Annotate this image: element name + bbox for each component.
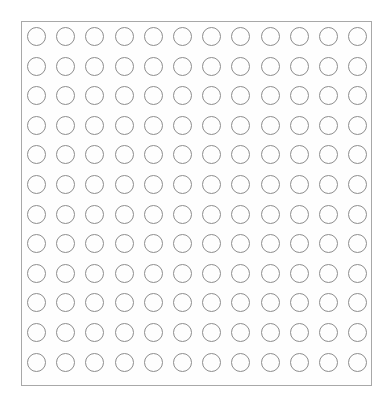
grid-circle-cell[interactable] [319, 116, 338, 135]
grid-circle-cell[interactable] [319, 86, 338, 105]
grid-circle-cell[interactable] [27, 57, 46, 76]
grid-circle-cell[interactable] [115, 145, 134, 164]
grid-circle-cell[interactable] [290, 145, 309, 164]
grid-circle-cell[interactable] [261, 57, 280, 76]
grid-circle-cell[interactable] [290, 323, 309, 342]
grid-circle-cell[interactable] [290, 86, 309, 105]
grid-circle-cell[interactable] [319, 145, 338, 164]
grid-circle-cell[interactable] [290, 264, 309, 283]
grid-circle-cell[interactable] [56, 234, 75, 253]
grid-circle-cell[interactable] [144, 116, 163, 135]
grid-circle-cell[interactable] [144, 86, 163, 105]
grid-circle-cell[interactable] [85, 205, 104, 224]
grid-circle-cell[interactable] [231, 175, 250, 194]
grid-circle-cell[interactable] [85, 27, 104, 46]
grid-circle-cell[interactable] [173, 205, 192, 224]
grid-circle-cell[interactable] [27, 86, 46, 105]
grid-circle-cell[interactable] [290, 27, 309, 46]
grid-circle-cell[interactable] [348, 175, 367, 194]
grid-circle-cell[interactable] [144, 323, 163, 342]
grid-circle-cell[interactable] [115, 205, 134, 224]
grid-circle-cell[interactable] [290, 353, 309, 372]
grid-circle-cell[interactable] [290, 175, 309, 194]
grid-circle-cell[interactable] [144, 234, 163, 253]
grid-circle-cell[interactable] [85, 145, 104, 164]
grid-circle-cell[interactable] [348, 145, 367, 164]
grid-circle-cell[interactable] [173, 86, 192, 105]
grid-circle-cell[interactable] [144, 264, 163, 283]
grid-circle-cell[interactable] [261, 116, 280, 135]
grid-circle-cell[interactable] [85, 353, 104, 372]
grid-circle-cell[interactable] [27, 264, 46, 283]
grid-circle-cell[interactable] [202, 293, 221, 312]
grid-circle-cell[interactable] [27, 145, 46, 164]
grid-circle-cell[interactable] [348, 116, 367, 135]
grid-circle-cell[interactable] [202, 205, 221, 224]
grid-circle-cell[interactable] [85, 234, 104, 253]
grid-circle-cell[interactable] [85, 323, 104, 342]
grid-circle-cell[interactable] [231, 57, 250, 76]
grid-circle-cell[interactable] [261, 353, 280, 372]
grid-circle-cell[interactable] [202, 116, 221, 135]
grid-circle-cell[interactable] [319, 205, 338, 224]
grid-circle-cell[interactable] [144, 57, 163, 76]
grid-circle-cell[interactable] [173, 175, 192, 194]
grid-circle-cell[interactable] [202, 86, 221, 105]
grid-circle-cell[interactable] [319, 323, 338, 342]
grid-circle-cell[interactable] [115, 57, 134, 76]
grid-circle-cell[interactable] [144, 205, 163, 224]
grid-circle-cell[interactable] [85, 293, 104, 312]
grid-circle-cell[interactable] [319, 264, 338, 283]
grid-circle-cell[interactable] [290, 234, 309, 253]
grid-circle-cell[interactable] [202, 264, 221, 283]
grid-circle-cell[interactable] [231, 116, 250, 135]
grid-circle-cell[interactable] [348, 57, 367, 76]
grid-circle-cell[interactable] [56, 293, 75, 312]
grid-circle-cell[interactable] [348, 205, 367, 224]
grid-circle-cell[interactable] [115, 27, 134, 46]
grid-circle-cell[interactable] [231, 205, 250, 224]
grid-circle-cell[interactable] [115, 323, 134, 342]
grid-circle-cell[interactable] [348, 293, 367, 312]
grid-circle-cell[interactable] [290, 116, 309, 135]
grid-circle-cell[interactable] [56, 264, 75, 283]
grid-circle-cell[interactable] [348, 27, 367, 46]
grid-circle-cell[interactable] [202, 175, 221, 194]
grid-circle-cell[interactable] [115, 353, 134, 372]
grid-circle-cell[interactable] [27, 234, 46, 253]
grid-circle-cell[interactable] [115, 293, 134, 312]
grid-circle-cell[interactable] [319, 27, 338, 46]
grid-circle-cell[interactable] [173, 293, 192, 312]
grid-circle-cell[interactable] [173, 57, 192, 76]
grid-circle-cell[interactable] [319, 293, 338, 312]
grid-circle-cell[interactable] [144, 27, 163, 46]
grid-circle-cell[interactable] [144, 145, 163, 164]
grid-circle-cell[interactable] [261, 175, 280, 194]
grid-circle-cell[interactable] [261, 293, 280, 312]
grid-circle-cell[interactable] [290, 57, 309, 76]
grid-circle-cell[interactable] [261, 323, 280, 342]
grid-circle-cell[interactable] [319, 57, 338, 76]
grid-circle-cell[interactable] [261, 27, 280, 46]
grid-circle-cell[interactable] [27, 353, 46, 372]
grid-circle-cell[interactable] [231, 234, 250, 253]
grid-circle-cell[interactable] [115, 86, 134, 105]
grid-circle-cell[interactable] [348, 323, 367, 342]
grid-circle-cell[interactable] [56, 175, 75, 194]
grid-circle-cell[interactable] [202, 145, 221, 164]
grid-circle-cell[interactable] [173, 145, 192, 164]
grid-circle-cell[interactable] [261, 205, 280, 224]
grid-circle-cell[interactable] [261, 234, 280, 253]
grid-circle-cell[interactable] [27, 175, 46, 194]
grid-circle-cell[interactable] [144, 293, 163, 312]
grid-circle-cell[interactable] [173, 323, 192, 342]
grid-circle-cell[interactable] [56, 57, 75, 76]
grid-circle-cell[interactable] [144, 353, 163, 372]
grid-circle-cell[interactable] [231, 353, 250, 372]
grid-circle-cell[interactable] [144, 175, 163, 194]
grid-circle-cell[interactable] [115, 234, 134, 253]
grid-circle-cell[interactable] [85, 57, 104, 76]
grid-circle-cell[interactable] [173, 27, 192, 46]
grid-circle-cell[interactable] [85, 175, 104, 194]
grid-circle-cell[interactable] [115, 264, 134, 283]
